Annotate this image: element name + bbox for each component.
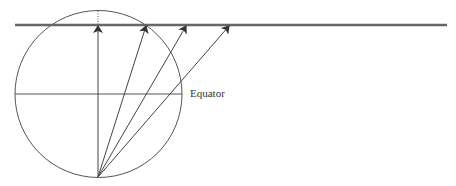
ray-1 — [98, 26, 146, 177]
equator-label: Equator — [190, 87, 225, 99]
diagram-canvas — [0, 0, 456, 186]
ray-3 — [98, 26, 229, 177]
ray-2 — [98, 26, 186, 177]
